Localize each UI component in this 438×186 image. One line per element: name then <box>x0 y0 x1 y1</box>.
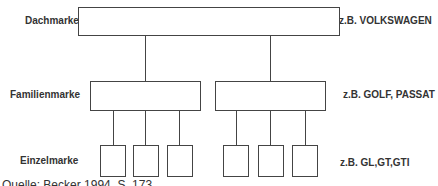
einzelmarke-box-1-3 <box>167 145 193 177</box>
level-label-familienmarke: Familienmarke <box>10 89 80 100</box>
einzelmarke-box-1-2 <box>133 145 159 177</box>
connector-family2-single-2 <box>270 110 271 146</box>
familienmarke-box-1 <box>90 81 201 111</box>
einzelmarke-box-1-1 <box>100 145 126 177</box>
example-label-einzelmarke: z.B. GL,GT,GTI <box>340 157 409 168</box>
connector-family2-single-1 <box>236 110 237 146</box>
einzelmarke-box-2-3 <box>292 145 318 177</box>
example-label-familienmarke: z.B. GOLF, PASSAT <box>343 89 435 100</box>
connector-dach-family-2 <box>270 35 271 82</box>
einzelmarke-box-2-1 <box>223 145 249 177</box>
dachmarke-box <box>78 7 340 36</box>
connector-family2-single-3 <box>305 110 306 146</box>
level-label-dachmarke: Dachmarke <box>25 15 79 26</box>
familienmarke-box-2 <box>215 81 326 111</box>
connector-dach-family-1 <box>145 35 146 82</box>
connector-family1-single-1 <box>113 110 114 146</box>
connector-family1-single-2 <box>145 110 146 146</box>
source-caption: Quelle: Becker 1994, S. 173 <box>2 178 152 186</box>
connector-family1-single-3 <box>179 110 180 146</box>
level-label-einzelmarke: Einzelmarke <box>20 155 78 166</box>
example-label-dachmarke: z.B. VOLKSWAGEN <box>339 15 432 26</box>
einzelmarke-box-2-2 <box>258 145 284 177</box>
